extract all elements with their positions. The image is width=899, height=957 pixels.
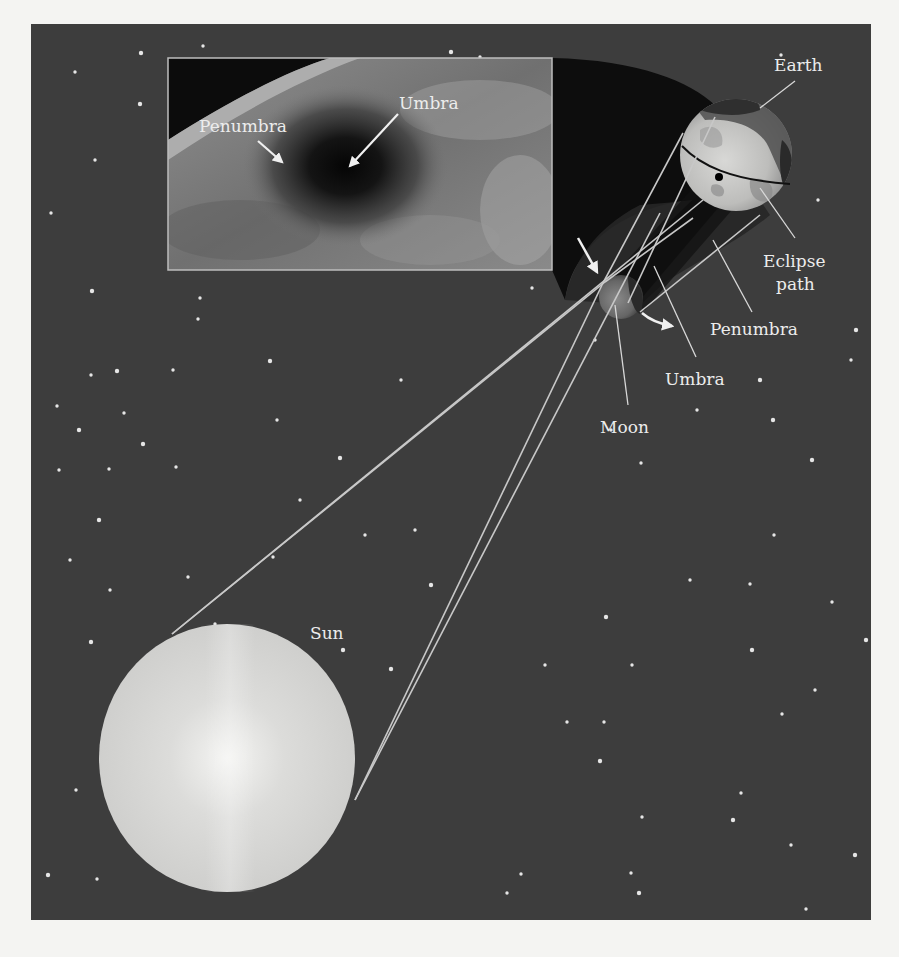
star bbox=[750, 648, 754, 652]
star bbox=[598, 759, 602, 763]
solar-eclipse-figure: Penumbra Umbra bbox=[0, 0, 899, 957]
inset-eclipse-photo bbox=[160, 58, 560, 270]
star bbox=[789, 843, 792, 846]
star bbox=[89, 373, 92, 376]
star bbox=[275, 418, 278, 421]
star bbox=[171, 368, 174, 371]
star bbox=[107, 467, 110, 470]
star bbox=[849, 358, 852, 361]
star bbox=[89, 640, 93, 644]
star bbox=[73, 70, 76, 73]
star bbox=[429, 583, 433, 587]
eclipse-path-label-line1: Eclipse bbox=[763, 251, 825, 271]
star bbox=[55, 404, 58, 407]
star bbox=[122, 411, 125, 414]
star bbox=[804, 907, 807, 910]
star bbox=[93, 158, 96, 161]
star bbox=[604, 615, 608, 619]
star bbox=[772, 533, 775, 536]
star bbox=[95, 877, 98, 880]
star bbox=[530, 286, 533, 289]
star bbox=[543, 663, 546, 666]
star bbox=[138, 102, 142, 106]
star bbox=[77, 428, 81, 432]
star bbox=[854, 328, 858, 332]
star bbox=[201, 44, 204, 47]
star bbox=[864, 638, 868, 642]
star bbox=[139, 51, 143, 55]
star bbox=[602, 720, 605, 723]
star bbox=[853, 853, 857, 857]
star bbox=[196, 317, 199, 320]
star bbox=[108, 588, 111, 591]
star bbox=[268, 359, 272, 363]
star bbox=[298, 498, 301, 501]
star bbox=[338, 456, 342, 460]
star bbox=[115, 369, 119, 373]
star bbox=[186, 575, 189, 578]
inset-umbra-label: Umbra bbox=[399, 93, 459, 113]
star bbox=[413, 528, 416, 531]
star bbox=[731, 818, 735, 822]
star bbox=[90, 289, 94, 293]
star bbox=[49, 211, 52, 214]
star bbox=[97, 518, 101, 522]
star bbox=[341, 648, 345, 652]
star bbox=[813, 688, 816, 691]
eclipse-point bbox=[715, 173, 723, 181]
star bbox=[639, 461, 642, 464]
star bbox=[739, 791, 742, 794]
star bbox=[363, 533, 366, 536]
star bbox=[748, 582, 751, 585]
star bbox=[68, 558, 71, 561]
star bbox=[780, 712, 783, 715]
star bbox=[46, 873, 50, 877]
star bbox=[640, 815, 643, 818]
penumbra-label: Penumbra bbox=[710, 319, 798, 339]
star bbox=[57, 468, 60, 471]
star bbox=[141, 442, 145, 446]
star bbox=[271, 555, 274, 558]
star bbox=[565, 720, 568, 723]
star bbox=[695, 408, 698, 411]
star bbox=[505, 891, 508, 894]
umbra-label: Umbra bbox=[665, 369, 725, 389]
star bbox=[399, 378, 402, 381]
eclipse-path-label-line2: path bbox=[776, 274, 815, 294]
star bbox=[816, 198, 819, 201]
star bbox=[74, 788, 77, 791]
star bbox=[758, 378, 762, 382]
star bbox=[810, 458, 814, 462]
star bbox=[630, 663, 633, 666]
star bbox=[629, 871, 632, 874]
sun-label: Sun bbox=[310, 623, 344, 643]
star bbox=[771, 418, 775, 422]
sun bbox=[99, 624, 355, 892]
star bbox=[637, 891, 641, 895]
moon-label: Moon bbox=[600, 417, 649, 437]
star bbox=[688, 578, 691, 581]
star bbox=[830, 600, 833, 603]
star bbox=[389, 667, 393, 671]
star bbox=[449, 50, 453, 54]
star bbox=[519, 872, 522, 875]
inset-penumbra-label: Penumbra bbox=[199, 116, 287, 136]
star bbox=[174, 465, 177, 468]
star bbox=[198, 296, 201, 299]
earth-label: Earth bbox=[774, 55, 823, 75]
